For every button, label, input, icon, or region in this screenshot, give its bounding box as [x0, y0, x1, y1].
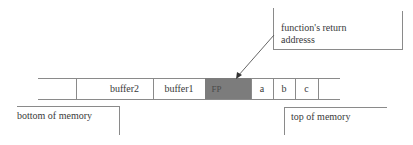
- top-callout-left-border: [284, 107, 285, 135]
- bottom-of-memory-label: bottom of memory: [17, 110, 92, 122]
- arrow-icon: [0, 0, 413, 145]
- bottom-callout-right-border: [119, 106, 120, 135]
- bottom-callout-top-border: [17, 106, 119, 107]
- top-callout-top-border: [284, 107, 387, 108]
- top-of-memory-label: top of memory: [291, 111, 350, 123]
